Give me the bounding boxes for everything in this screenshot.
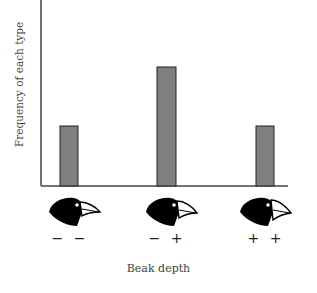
bar-low-low xyxy=(60,126,78,186)
bar-high-high xyxy=(256,126,274,186)
category-label: − − xyxy=(50,230,90,246)
finch-head-icon xyxy=(49,198,100,226)
finch-head-icon xyxy=(240,198,291,226)
category-label: − + xyxy=(147,230,187,246)
bar-low-high xyxy=(157,67,176,186)
bar-chart xyxy=(0,0,317,293)
x-axis-label: Beak depth xyxy=(0,262,317,275)
category-label: + + xyxy=(246,230,286,246)
finch-head-icon xyxy=(146,198,197,226)
y-axis-label: Frequency of each type xyxy=(13,27,27,147)
